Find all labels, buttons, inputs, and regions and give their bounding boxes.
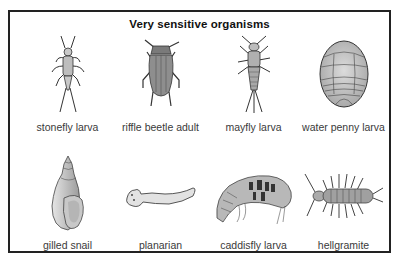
- panel-title: Very sensitive organisms: [10, 18, 389, 30]
- organism-riffle-beetle-adult: riffle beetle adult: [113, 34, 208, 134]
- organism-water-penny-larva: water penny larva: [296, 32, 391, 132]
- organism-label: hellgramite: [296, 239, 391, 251]
- riffle-beetle-icon: [131, 34, 191, 114]
- hellgramite-icon: [299, 152, 389, 234]
- organism-label: stonefly larva: [20, 121, 115, 133]
- organism-gilled-snail: gilled snail: [20, 152, 115, 257]
- organism-caddisfly-larva: caddisfly larva: [206, 152, 301, 257]
- water-penny-icon: [314, 32, 374, 112]
- mayfly-larva-icon: [224, 34, 284, 114]
- gilled-snail-icon: [38, 152, 98, 234]
- organism-label: planarian: [113, 239, 208, 251]
- organism-hellgramite: hellgramite: [296, 152, 391, 257]
- organism-label: caddisfly larva: [206, 239, 301, 251]
- organisms-panel: Very sensitive organisms stonefly larva: [8, 10, 391, 253]
- stonefly-larva-icon: [38, 34, 98, 114]
- planarian-icon: [121, 152, 201, 234]
- caddisfly-larva-icon: [209, 152, 299, 234]
- organism-stonefly-larva: stonefly larva: [20, 34, 115, 134]
- organism-label: water penny larva: [296, 121, 391, 133]
- organism-mayfly-larva: mayfly larva: [206, 34, 301, 134]
- organism-label: gilled snail: [20, 239, 115, 251]
- organism-planarian: planarian: [113, 152, 208, 257]
- organism-label: mayfly larva: [206, 121, 301, 133]
- organism-label: riffle beetle adult: [113, 121, 208, 133]
